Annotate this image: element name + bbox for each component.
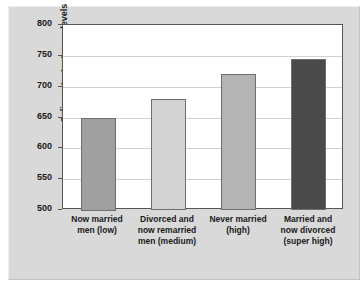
x-axis-category-label-line: now remarried (132, 225, 202, 236)
plot-area (62, 24, 343, 209)
y-axis-tick-label: 650 (0, 112, 52, 121)
bar (81, 118, 116, 211)
x-axis-category-label-line: Married and (273, 214, 343, 225)
y-axis-tick-label: 550 (0, 173, 52, 182)
bar (221, 74, 256, 210)
y-axis-tick-label: 800 (0, 19, 52, 28)
x-axis-category-label: Divorced andnow remarriedmen (medium) (132, 214, 202, 247)
x-axis-category-label: Married andnow divorced(super high) (273, 214, 343, 247)
bar (151, 99, 186, 210)
x-axis-category-label-line: men (low) (62, 225, 132, 236)
bar (291, 59, 326, 210)
gridline (63, 56, 342, 57)
x-axis-category-label-line: now divorced (273, 225, 343, 236)
x-axis-category-label-line: Now married (62, 214, 132, 225)
y-axis-tick-label: 600 (0, 142, 52, 151)
y-axis-tick-label: 700 (0, 81, 52, 90)
x-axis-category-label: Now marriedmen (low) (62, 214, 132, 236)
x-axis-category-label-line: (super high) (273, 236, 343, 247)
y-axis-tick-label: 500 (0, 204, 52, 213)
x-axis-category-label-line: Never married (203, 214, 273, 225)
x-axis-category-label-line: men (medium) (132, 236, 202, 247)
x-axis-category-label-line: Divorced and (132, 214, 202, 225)
x-axis-category-label-line: (high) (203, 225, 273, 236)
figure: Salivary testosterone levels 80075070065… (0, 0, 364, 286)
y-axis-tick-mark (58, 209, 62, 210)
x-axis-category-label: Never married(high) (203, 214, 273, 236)
y-axis-tick-label: 750 (0, 50, 52, 59)
